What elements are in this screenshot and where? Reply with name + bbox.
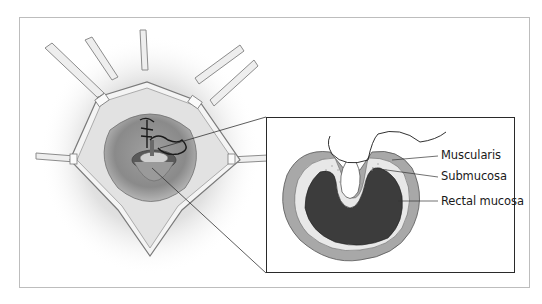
label-rectal-mucosa: Rectal mucosa bbox=[441, 194, 524, 208]
label-submucosa: Submucosa bbox=[441, 169, 507, 183]
label-muscularis: Muscularis bbox=[441, 148, 501, 162]
